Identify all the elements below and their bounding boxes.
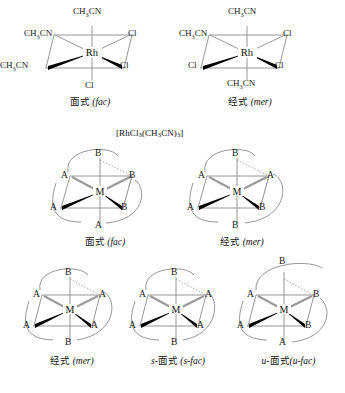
chelate-s-fac-vertex-lower-left: A [129, 320, 136, 330]
caption-rh-mer-cn: 经式 [228, 97, 248, 107]
chelate-u-fac-vertex-bottom: A [279, 337, 286, 347]
structure-rh-mer: Rh CH3CN CH3CN Cl Cl Cl CH3CN [185, 8, 320, 96]
rh-mer-vertex-top: CH3CN [228, 6, 256, 18]
chelate-u-fac-vertex-lower-right: B [305, 320, 311, 330]
chelate-s-fac-vertex-lower-right: A [197, 320, 204, 330]
chelate-mer-drawing: M [185, 150, 310, 236]
chelate-s-fac-vertex-upper-right: A [205, 289, 212, 299]
chelate-fac-vertex-lower-right: B [121, 202, 127, 212]
caption-chelate-s-fac-cn: 面式 [158, 356, 178, 366]
caption-chelate-u-fac: u-面式(u-fac) [236, 355, 341, 367]
caption-chelate-u-fac-cn: 面式 [270, 356, 290, 366]
structure-chelate-u-fac: M B A B A B A [236, 270, 345, 352]
chelate-mer-2-vertex-lower-left: A [23, 320, 30, 330]
caption-chelate-mer-cn: 经式 [220, 237, 240, 247]
structure-chelate-s-fac: M B A A A A B [128, 270, 233, 352]
caption-chelate-s-fac-prefix: s- [151, 356, 158, 366]
caption-chelate-s-fac: s-面式 (s-fac) [128, 355, 228, 367]
caption-chelate-u-fac-en: (u-fac) [290, 356, 316, 366]
chelate-u-fac-vertex-upper-right: B [313, 289, 319, 299]
chelate-mer-2-drawing: M [22, 270, 127, 352]
rh-mer-vertex-upper-left: CH3CN [179, 28, 207, 40]
compound-formula: [RhCl3(CH3CN)3] [116, 128, 183, 138]
caption-chelate-fac: 面式 (fac) [55, 236, 155, 248]
structure-chelate-fac: M B A B A B A [48, 150, 168, 236]
figure-page: Rh Rh CH3CN CH3CN Cl CH3CN Cl Cl 面式 (fac… [0, 0, 345, 393]
chelate-u-fac-vertex-upper-left: A [247, 289, 254, 299]
structure-rh-fac: Rh Rh CH3CN CH3CN Cl CH3CN Cl Cl [25, 8, 160, 96]
rh-mer-vertex-lower-right: Cl [275, 60, 284, 70]
caption-rh-mer: 经式 (mer) [200, 96, 300, 108]
chelate-mer-vertex-upper-left: A [198, 170, 205, 180]
caption-rh-fac: 面式 (fac) [40, 96, 140, 108]
rh-mer-vertex-bottom: CH3CN [227, 78, 255, 90]
chelate-mer-2-vertex-bottom: B [65, 337, 71, 347]
chelate-s-fac-vertex-bottom: B [171, 337, 177, 347]
chelate-fac-vertex-top: B [95, 148, 101, 158]
rh-fac-vertex-lower-right: Cl [120, 60, 129, 70]
rh-fac-vertex-bottom: Cl [85, 80, 94, 90]
chelate-mer-2-vertex-upper-left: A [33, 289, 40, 299]
caption-chelate-mer-2-en: (mer) [73, 356, 94, 366]
caption-chelate-mer-2-cn: 经式 [50, 356, 70, 366]
structure-chelate-mer-2: M B A A A A B [22, 270, 127, 352]
chelate-fac-vertex-bottom: A [95, 220, 102, 230]
chelate-fac-center-label: M [96, 186, 105, 197]
chelate-mer-2-vertex-upper-right: A [99, 289, 106, 299]
caption-chelate-mer-2: 经式 (mer) [22, 355, 122, 367]
caption-chelate-fac-cn: 面式 [85, 237, 105, 247]
chelate-mer-2-vertex-top: B [65, 267, 71, 277]
chelate-mer-vertex-lower-right: B [259, 202, 265, 212]
chelate-s-fac-vertex-upper-left: A [139, 289, 146, 299]
caption-chelate-u-fac-prefix: u- [262, 356, 270, 366]
rh-mer-vertex-lower-left: Cl [188, 60, 197, 70]
caption-chelate-mer-en: (mer) [243, 237, 264, 247]
chelate-mer-vertex-bottom: B [232, 220, 238, 230]
caption-rh-mer-en: (mer) [251, 97, 272, 107]
svg-text:Rh: Rh [86, 47, 99, 58]
caption-rh-fac-en: (fac) [92, 97, 110, 107]
chelate-u-fac-vertex-top: B [279, 256, 285, 266]
rh-mer-vertex-upper-right: Cl [283, 28, 292, 38]
chelate-mer-vertex-top: B [232, 148, 238, 158]
caption-chelate-mer: 经式 (mer) [192, 236, 292, 248]
chelate-u-fac-drawing: M [236, 270, 345, 352]
chelate-s-fac-drawing: M [128, 270, 233, 352]
chelate-s-fac-vertex-top: B [171, 267, 177, 277]
chelate-mer-vertex-upper-right: A [267, 170, 274, 180]
chelate-mer-center-label: M [233, 186, 242, 197]
caption-chelate-fac-en: (fac) [107, 237, 125, 247]
chelate-fac-drawing: M [48, 150, 168, 236]
chelate-s-fac-center-label: M [172, 304, 181, 315]
chelate-u-fac-vertex-lower-left: A [237, 320, 244, 330]
chelate-u-fac-center-label: M [280, 304, 289, 315]
chelate-mer-vertex-lower-left: A [187, 202, 194, 212]
rh-fac-vertex-lower-left: CH3CN [0, 60, 28, 72]
caption-rh-fac-cn: 面式 [70, 97, 90, 107]
rh-fac-vertex-top: CH3CN [73, 6, 101, 18]
chelate-mer-2-center-label: M [66, 304, 75, 315]
chelate-fac-vertex-upper-left: A [61, 170, 68, 180]
chelate-fac-vertex-lower-left: A [50, 202, 57, 212]
rh-mer-center-label: Rh [241, 47, 254, 58]
caption-chelate-s-fac-en: (s-fac) [180, 356, 205, 366]
chelate-fac-vertex-upper-right: B [129, 170, 135, 180]
structure-chelate-mer: M B A A A B B [185, 150, 310, 236]
chelate-mer-2-vertex-lower-right: A [91, 320, 98, 330]
rh-fac-vertex-upper-right: Cl [128, 28, 137, 38]
rh-fac-vertex-upper-left: CH3CN [24, 28, 52, 40]
